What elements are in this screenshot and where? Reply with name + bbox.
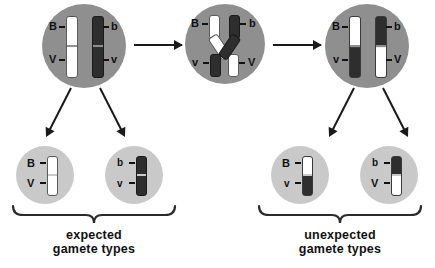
gamete-Bv: B v — [271, 146, 329, 204]
allele-tick — [129, 182, 135, 184]
centromere-pinch — [392, 174, 401, 176]
allele-tick — [295, 182, 301, 184]
allele-label-b: b — [249, 18, 256, 29]
allele-label-B: B — [27, 158, 35, 169]
allele-label-B: B — [332, 21, 340, 32]
allele-tick — [40, 162, 46, 164]
allele-tick — [59, 26, 65, 28]
allele-label-v: v — [117, 179, 123, 189]
centromere-pinch — [376, 45, 386, 47]
allele-label-B: B — [49, 21, 57, 32]
allele-tick — [103, 59, 109, 61]
caption-unexpected: unexpected gamete types — [256, 228, 424, 257]
allele-label-V: V — [371, 178, 378, 189]
allele-label-v: v — [284, 179, 290, 189]
chromosome-dark-bv — [136, 156, 147, 196]
arrow-to-gamete-bv — [99, 88, 123, 132]
allele-label-V: V — [248, 57, 255, 68]
chromosome-recombinant-Bv — [349, 16, 361, 78]
allele-tick — [342, 59, 348, 61]
allele-label-v: v — [192, 57, 198, 68]
centromere-pinch — [67, 45, 77, 47]
allele-label-B: B — [282, 158, 290, 169]
brace-unexpected — [256, 204, 424, 224]
allele-tick — [129, 162, 135, 164]
centromere-pinch — [303, 174, 312, 176]
allele-label-B: B — [191, 18, 199, 29]
allele-label-b: b — [111, 21, 118, 32]
allele-tick — [40, 182, 46, 184]
arrow-crossover-to-recombinant — [273, 44, 321, 46]
chromosome-recombinant-bV — [391, 156, 402, 196]
allele-tick — [240, 23, 246, 25]
chiasma-white-lower — [228, 54, 239, 77]
centromere-pinch — [137, 174, 146, 176]
allele-label-b: b — [394, 21, 401, 32]
allele-label-b: b — [117, 158, 123, 168]
allele-label-b: b — [372, 158, 378, 168]
caption-unexpected-line1: unexpected — [256, 228, 424, 242]
allele-tick — [103, 26, 109, 28]
centromere-pinch — [48, 174, 57, 176]
arrow-to-gamete-Bv — [331, 88, 355, 132]
cell-crossover: B b v V — [185, 4, 265, 84]
allele-tick — [386, 26, 392, 28]
caption-expected-line1: expected — [10, 228, 178, 242]
chiasma-dark-lower — [210, 54, 221, 77]
brace-expected — [10, 204, 178, 224]
gamete-bv: b v — [105, 146, 163, 204]
arrow-parental-to-crossover — [134, 44, 182, 46]
allele-label-v: v — [333, 54, 339, 65]
cell-parental: B V b v — [42, 4, 126, 88]
caption-expected-line2: gamete types — [10, 242, 178, 256]
allele-tick — [384, 182, 390, 184]
arrow-to-gamete-bV — [382, 88, 406, 132]
allele-tick — [386, 59, 392, 61]
allele-tick — [384, 162, 390, 164]
gamete-bV: b V — [360, 146, 418, 204]
chromosome-white-BV — [66, 16, 78, 78]
allele-label-v: v — [111, 54, 117, 65]
caption-expected: expected gamete types — [10, 228, 178, 257]
allele-label-V: V — [49, 54, 56, 65]
centromere-pinch — [93, 45, 103, 47]
allele-label-V: V — [27, 178, 34, 189]
allele-tick — [59, 59, 65, 61]
centromere-pinch — [350, 45, 360, 47]
crossing-over-diagram: B V b v B b v V B — [0, 0, 435, 268]
caption-unexpected-line2: gamete types — [256, 242, 424, 256]
cell-recombinant: B v b V — [325, 4, 409, 88]
allele-tick — [295, 162, 301, 164]
allele-tick — [202, 23, 208, 25]
allele-tick — [203, 62, 209, 64]
gamete-BV: B V — [16, 146, 74, 204]
allele-tick — [342, 26, 348, 28]
chromosome-white-BV — [47, 156, 58, 196]
allele-tick — [239, 62, 245, 64]
arrow-to-gamete-BV — [48, 88, 72, 132]
allele-label-V: V — [394, 54, 401, 65]
chromosome-recombinant-Bv — [302, 156, 313, 196]
